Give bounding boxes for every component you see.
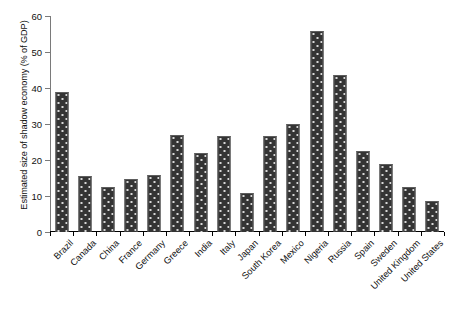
plot-area: 0102030405060 [50,16,444,232]
bar [426,201,439,232]
bar [380,164,393,232]
bar-slot [421,16,444,232]
bar-slot [96,16,119,232]
bar-slot [398,16,421,232]
bar [171,135,184,232]
bar [356,151,369,232]
bar [194,153,207,232]
x-axis-tick [50,232,51,236]
bar-slot [328,16,351,232]
bar-slot [189,16,212,232]
x-axis-tick [143,232,144,236]
x-axis-tick [96,232,97,236]
y-axis-tick-label: 30 [31,119,42,130]
bar-slot [50,16,73,232]
bar [78,176,91,232]
bar [287,124,300,232]
bar [55,92,68,232]
x-axis-tick [235,232,236,236]
bar-slot [351,16,374,232]
y-axis-tick-label: 40 [31,83,42,94]
bar [264,136,277,232]
x-axis-tick [166,232,167,236]
bar [333,75,346,232]
y-axis-title: Estimated size of shadow economy (% of G… [19,5,29,225]
x-axis-tick [398,232,399,236]
x-axis-tick [282,232,283,236]
y-axis-tick-label: 20 [31,155,42,166]
x-axis-tick [351,232,352,236]
bar-slot [166,16,189,232]
x-axis-tick [189,232,190,236]
bar-slot [305,16,328,232]
bar-slot [212,16,235,232]
y-axis-tick-label: 0 [37,227,42,238]
y-axis-tick-label: 10 [31,191,42,202]
x-axis-tick [374,232,375,236]
bar [125,179,138,232]
bar-slot [259,16,282,232]
bar [101,187,114,232]
bar [217,136,230,232]
x-axis-tick [120,232,121,236]
bar [240,193,253,232]
bar-slot [73,16,96,232]
bar-slot [120,16,143,232]
x-axis-tick [212,232,213,236]
x-axis-tick [305,232,306,236]
x-axis-tick [328,232,329,236]
x-axis-tick [73,232,74,236]
bar [310,31,323,232]
y-axis-tick-label: 50 [31,47,42,58]
bar-slot [374,16,397,232]
x-axis-tick [259,232,260,236]
x-axis-tick [421,232,422,236]
bar-slot [282,16,305,232]
bar [403,187,416,232]
bar-chart: Estimated size of shadow economy (% of G… [0,0,453,313]
bar-slot [235,16,258,232]
bar [148,175,161,232]
bar-slot [143,16,166,232]
y-axis-tick-label: 60 [31,11,42,22]
x-axis-tick [444,232,445,236]
